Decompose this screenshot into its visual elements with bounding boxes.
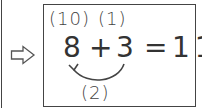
hollow-right-arrow-icon	[10, 45, 36, 65]
annotation-two: (2)	[81, 84, 110, 102]
result-eleven: 11	[172, 34, 202, 62]
previous-box-edge	[0, 0, 2, 108]
annotation-one: (1)	[98, 10, 127, 28]
equals-sign: =	[144, 34, 167, 62]
plus-sign: +	[89, 34, 112, 62]
equation-box: (10) (1) 8 + 3 = 11 (2)	[43, 4, 196, 107]
operand-eight: 8	[63, 34, 81, 62]
operand-three: 3	[116, 34, 134, 62]
annotation-ten: (10)	[49, 10, 90, 28]
